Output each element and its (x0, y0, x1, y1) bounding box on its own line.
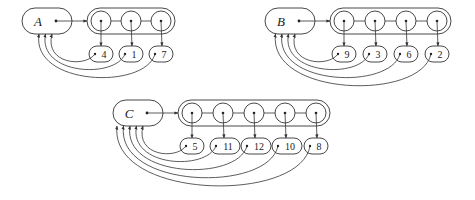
member-value-label: 2 (438, 49, 443, 60)
set-name-label: C (125, 106, 134, 121)
set-C: C51112108 (113, 100, 330, 186)
member-value-label: 5 (193, 141, 198, 152)
member-value-label: 7 (162, 49, 167, 60)
back-pointer-arrow (117, 126, 310, 186)
back-pointer-arrow (51, 34, 95, 62)
set-name-label: A (33, 14, 42, 29)
member-value-label: 11 (223, 141, 233, 152)
member-value-label: 6 (407, 49, 412, 60)
member-value-label: 1 (132, 49, 137, 60)
member-value-label: 8 (317, 141, 322, 152)
member-value-label: 12 (254, 141, 264, 152)
set-name-label: B (277, 14, 285, 29)
member-value-label: 10 (285, 141, 295, 152)
back-pointer-arrow (294, 34, 338, 62)
back-pointer-arrow (288, 34, 369, 70)
member-value-label: 9 (345, 49, 350, 60)
back-pointer-arrow (142, 126, 186, 154)
member-value-label: 4 (102, 49, 107, 60)
set-A: A417 (22, 8, 175, 78)
member-value-label: 3 (376, 49, 381, 60)
sets-layer: A417B9362C51112108 (22, 8, 451, 186)
disjoint-set-diagram: A417B9362C51112108 (0, 0, 475, 200)
set-B: B9362 (265, 8, 451, 86)
